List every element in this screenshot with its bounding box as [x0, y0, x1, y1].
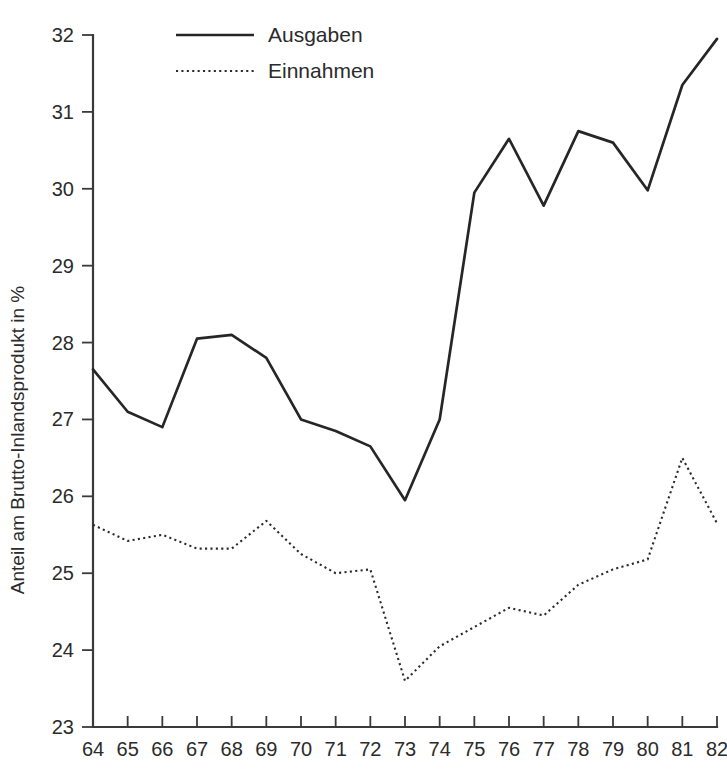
x-axis-tick-label: 73: [394, 738, 416, 760]
chart-series: [93, 39, 717, 681]
y-axis-tick-label: 27: [52, 408, 74, 430]
y-axis-tick-label: 30: [52, 178, 74, 200]
x-axis-tick-label: 79: [602, 738, 624, 760]
y-axis-tick-label: 28: [52, 332, 74, 354]
chart-container: Ausgaben Einnahmen 23242526272829303132 …: [0, 0, 727, 783]
x-axis-tick-label: 75: [463, 738, 485, 760]
x-axis-tick-label: 81: [671, 738, 693, 760]
series-line-ausgaben: [93, 39, 717, 500]
x-axis-tick-label: 70: [290, 738, 312, 760]
x-axis-tick-label: 68: [221, 738, 243, 760]
x-axis-tick-label: 80: [637, 738, 659, 760]
chart-axes: [93, 35, 717, 727]
x-axis-tick-label: 71: [325, 738, 347, 760]
line-chart: Ausgaben Einnahmen 23242526272829303132 …: [0, 0, 727, 783]
y-axis-tick-label: 31: [52, 101, 74, 123]
x-axis-tick-label: 69: [255, 738, 277, 760]
legend-label-einnahmen: Einnahmen: [268, 59, 374, 82]
x-axis-tick-label: 64: [82, 738, 104, 760]
series-line-einnahmen: [93, 458, 717, 681]
x-axis-tick-label: 74: [429, 738, 451, 760]
y-axis-tick-label: 24: [52, 639, 74, 661]
x-axis-tick-label: 72: [359, 738, 381, 760]
x-axis: 64656667686970717273747576777879808182: [82, 716, 727, 760]
x-axis-tick-label: 76: [498, 738, 520, 760]
y-axis-title: Anteil am Brutto-Inlandsprodukt in %: [7, 286, 28, 594]
legend-label-ausgaben: Ausgaben: [268, 23, 363, 46]
chart-legend: Ausgaben Einnahmen: [176, 23, 374, 82]
y-axis-tick-label: 26: [52, 485, 74, 507]
y-axis-tick-label: 29: [52, 255, 74, 277]
y-axis-tick-label: 32: [52, 24, 74, 46]
x-axis-tick-label: 65: [117, 738, 139, 760]
x-axis-tick-label: 78: [567, 738, 589, 760]
y-axis-tick-label: 25: [52, 562, 74, 584]
x-axis-tick-label: 77: [533, 738, 555, 760]
x-axis-tick-label: 82: [706, 738, 727, 760]
x-axis-tick-label: 67: [186, 738, 208, 760]
y-axis: 23242526272829303132: [52, 24, 93, 738]
x-axis-tick-label: 66: [151, 738, 173, 760]
y-axis-tick-label: 23: [52, 716, 74, 738]
